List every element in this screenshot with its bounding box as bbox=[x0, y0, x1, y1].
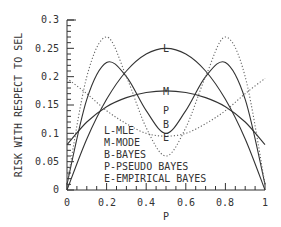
x-axis-label: P bbox=[163, 211, 169, 222]
legend: L-MLE M-MODE B-BAYES P-PSEUDO BAYES E-EM… bbox=[104, 125, 206, 184]
legend-entry-pseudo-bayes: P-PSEUDO BAYES bbox=[104, 161, 188, 172]
legend-entry-mode: M-MODE bbox=[104, 137, 140, 148]
curve-label-L: L bbox=[163, 43, 169, 54]
curve-label-B: B bbox=[163, 119, 169, 130]
x-ticks bbox=[67, 183, 265, 190]
y-tick-label: 0.25 bbox=[35, 43, 59, 54]
x-tick-label: 1 bbox=[262, 197, 268, 208]
x-tick-label: 0.2 bbox=[98, 197, 116, 208]
risk-chart: RISK WITH RESPECT TO SEL 0 0.05 0.1 0.15… bbox=[0, 0, 281, 227]
legend-entry-mle: L-MLE bbox=[104, 125, 134, 136]
y-tick-label: 0.05 bbox=[35, 156, 59, 167]
curve-labels: L M P B E bbox=[163, 43, 169, 143]
x-tick-label: 0.6 bbox=[177, 197, 195, 208]
y-axis-label: RISK WITH RESPECT TO SEL bbox=[13, 33, 24, 178]
x-tick-label: 0.4 bbox=[137, 197, 155, 208]
curve-label-M: M bbox=[163, 86, 169, 97]
y-tick-label: 0.3 bbox=[41, 14, 59, 25]
y-tick-label: 0.15 bbox=[35, 99, 59, 110]
y-tick-label: 0.1 bbox=[41, 128, 59, 139]
y-tick-label: 0 bbox=[53, 184, 59, 195]
x-tick-labels: 0 0.2 0.4 0.6 0.8 1 bbox=[64, 197, 268, 208]
x-tick-label: 0.8 bbox=[216, 197, 234, 208]
legend-entry-empirical-bayes: E-EMPIRICAL BAYES bbox=[104, 173, 206, 184]
legend-entry-bayes: B-BAYES bbox=[104, 149, 146, 160]
curve-label-E: E bbox=[163, 132, 169, 143]
curve-label-P: P bbox=[163, 105, 169, 116]
y-tick-labels: 0 0.05 0.1 0.15 0.2 0.25 0.3 bbox=[35, 14, 59, 195]
y-tick-label: 0.2 bbox=[41, 71, 59, 82]
x-tick-label: 0 bbox=[64, 197, 70, 208]
